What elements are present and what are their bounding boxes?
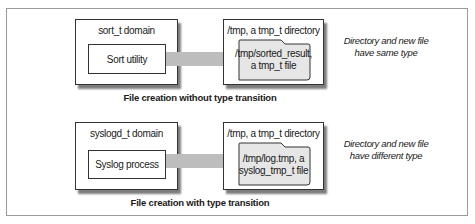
file-label-line1: /tmp/log.tmp, a — [224, 153, 323, 165]
file-label-line1: /tmp/sorted_result, — [224, 48, 323, 60]
process-box: Syslog process — [88, 150, 166, 179]
note-line2: have different type — [331, 150, 441, 162]
directory-label: /tmp, a tmp_t directory — [224, 25, 323, 36]
domain-box: syslogd_t domain Syslog process — [75, 122, 178, 190]
note-line1: Directory and new file — [331, 138, 441, 150]
file-label-line2: syslog_tmp_t file — [224, 165, 323, 177]
directory-box: /tmp, a tmp_t directory /tmp/sorted_resu… — [223, 19, 324, 85]
note-line2: have same type — [331, 47, 441, 59]
caption: File creation with type transition — [0, 197, 400, 208]
file-label-line2: a tmp_t file — [224, 60, 323, 72]
domain-label: sort_t domain — [76, 25, 177, 36]
domain-label: syslogd_t domain — [76, 128, 177, 139]
process-box: Sort utility — [88, 44, 166, 74]
directory-box: /tmp, a tmp_t directory /tmp/log.tmp, a … — [223, 122, 324, 190]
domain-box: sort_t domain Sort utility — [75, 19, 178, 85]
note-line1: Directory and new file — [331, 35, 441, 47]
directory-label: /tmp, a tmp_t directory — [224, 128, 323, 139]
caption: File creation without type transition — [0, 92, 400, 103]
